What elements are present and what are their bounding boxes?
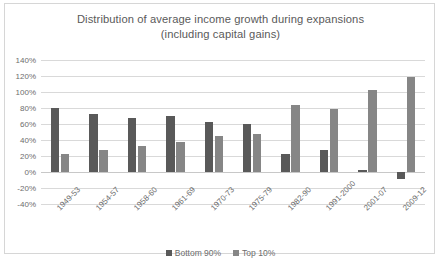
bar [89, 114, 98, 172]
bar [281, 154, 290, 172]
y-tick-label: -20% [17, 184, 36, 193]
bar [320, 150, 329, 172]
chart-title-line1: Distribution of average income growth du… [77, 13, 364, 25]
bar [128, 118, 137, 172]
bar-group [310, 60, 348, 204]
bar-group [233, 60, 271, 204]
bar [253, 134, 262, 172]
bar [205, 122, 214, 172]
bar [215, 136, 224, 172]
legend-swatch-icon [233, 250, 239, 256]
bar-group [195, 60, 233, 204]
y-tick-label: 40% [20, 136, 36, 145]
y-tick-label: 0% [24, 168, 36, 177]
legend-item[interactable]: Top 10% [233, 248, 275, 258]
bar-group [41, 60, 79, 204]
y-tick-label: -40% [17, 200, 36, 209]
bar [99, 150, 108, 172]
y-axis-labels: 140%120%100%80%60%40%20%0%-20%-40% [5, 60, 39, 204]
y-tick-label: 140% [16, 56, 36, 65]
x-axis-labels: 1949-531954-571958-601961-691970-731975-… [41, 204, 425, 248]
y-tick-label: 60% [20, 120, 36, 129]
bar-group [387, 60, 425, 204]
bar [368, 90, 377, 172]
y-tick-label: 120% [16, 72, 36, 81]
bar [166, 116, 175, 172]
bar-group [79, 60, 117, 204]
legend-swatch-icon [166, 250, 172, 256]
bar-group [271, 60, 309, 204]
bar [138, 146, 147, 172]
bar [243, 124, 252, 172]
legend-item[interactable]: Bottom 90% [166, 248, 221, 258]
bar-group [118, 60, 156, 204]
bar [407, 77, 416, 172]
legend-label: Bottom 90% [175, 248, 221, 258]
y-tick-label: 20% [20, 152, 36, 161]
legend-label: Top 10% [242, 248, 275, 258]
bar-group [156, 60, 194, 204]
chart-title: Distribution of average income growth du… [5, 12, 436, 42]
bars-layer [41, 60, 425, 204]
chart-frame: Distribution of average income growth du… [4, 3, 435, 254]
plot-area [41, 60, 425, 204]
chart-legend: Bottom 90%Top 10% [5, 248, 436, 258]
y-tick-label: 100% [16, 88, 36, 97]
bar [330, 109, 339, 172]
bar [61, 154, 70, 172]
bar [358, 170, 367, 172]
bar [291, 105, 300, 172]
chart-title-line2: (including capital gains) [5, 27, 436, 42]
bar [176, 142, 185, 172]
bar [397, 172, 406, 179]
bar [51, 108, 60, 172]
y-tick-label: 80% [20, 104, 36, 113]
